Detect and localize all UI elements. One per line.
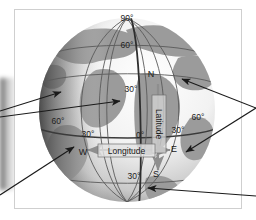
pointer-left-lower (0, 147, 74, 195)
pointer-left-middle (0, 101, 120, 117)
pointer-right-bottom (148, 188, 256, 196)
pointer-layer (0, 0, 256, 220)
pointer-left-upper (0, 92, 61, 111)
pointer-right-upper (182, 79, 256, 108)
figure-canvas: 90° 60° 30° 0° 30° 60° 30° 30° 60° N S W… (0, 0, 256, 220)
pointer-right-lower (186, 108, 256, 152)
pointer-lines (0, 79, 256, 196)
